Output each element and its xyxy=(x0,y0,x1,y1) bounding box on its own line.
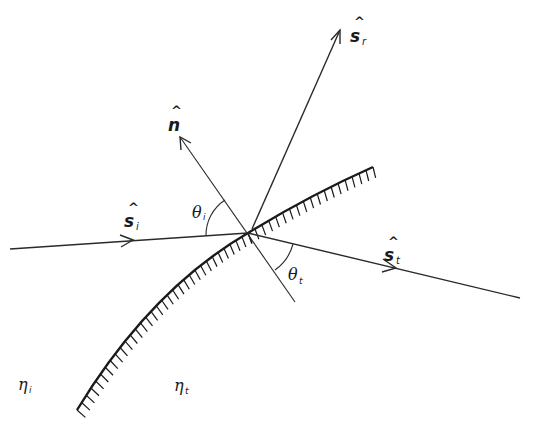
svg-text:r: r xyxy=(362,36,367,47)
svg-text:θ: θ xyxy=(288,265,298,284)
svg-text:θ: θ xyxy=(192,203,202,222)
eta-i-label: η i xyxy=(18,375,32,395)
svg-text:n: n xyxy=(168,115,180,135)
incident-ray xyxy=(10,233,248,249)
reflected-label: ^ s r xyxy=(350,14,367,47)
transmitted-label: ^ s t xyxy=(384,234,401,266)
svg-text:s: s xyxy=(384,245,394,265)
interface-surface xyxy=(77,167,373,410)
svg-text:i: i xyxy=(29,385,32,395)
svg-text:s: s xyxy=(124,211,134,231)
theta-t-label: θ t xyxy=(288,265,303,286)
svg-text:i: i xyxy=(136,221,139,232)
surface-hatching xyxy=(77,167,376,417)
svg-text:s: s xyxy=(350,26,360,46)
svg-text:t: t xyxy=(299,276,303,286)
optics-diagram: ^ n ^ s r ^ s i ^ s t θ i θ t η i η t xyxy=(0,0,534,427)
svg-text:t: t xyxy=(185,386,189,396)
theta-i-arc xyxy=(206,200,225,236)
svg-text:t: t xyxy=(396,255,401,266)
theta-i-label: θ i xyxy=(192,203,206,222)
incident-label: ^ s i xyxy=(124,200,139,232)
eta-t-label: η t xyxy=(174,376,189,396)
normal-label: ^ n xyxy=(168,103,182,135)
svg-text:η: η xyxy=(174,376,184,395)
svg-text:i: i xyxy=(203,212,206,222)
svg-text:η: η xyxy=(18,375,28,394)
